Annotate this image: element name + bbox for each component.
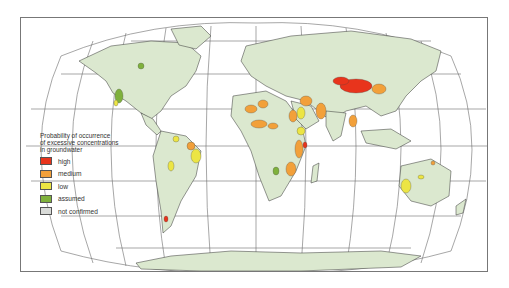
swatch-not-confirmed: [40, 207, 52, 215]
legend-item-assumed: assumed: [40, 193, 160, 206]
legend-item-low: low: [40, 180, 160, 193]
map-frame: Probability of occurrence of excessive c…: [20, 17, 488, 272]
legend: Probability of occurrence of excessive c…: [40, 132, 160, 218]
swatch-low: [40, 182, 52, 190]
legend-item-medium: medium: [40, 168, 160, 181]
swatch-medium: [40, 170, 52, 178]
legend-item-high: high: [40, 155, 160, 168]
legend-title: Probability of occurrence of excessive c…: [40, 132, 160, 153]
swatch-high: [40, 157, 52, 165]
swatch-assumed: [40, 195, 52, 203]
legend-item-not-confirmed: not confirmed: [40, 205, 160, 218]
